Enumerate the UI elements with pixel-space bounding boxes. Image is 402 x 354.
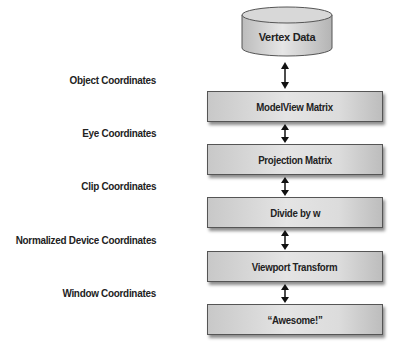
stage-viewport-transform: Viewport Transform bbox=[207, 251, 383, 282]
stage-label: ModelView Matrix bbox=[257, 101, 333, 113]
label-object-coordinates: Object Coordinates bbox=[70, 74, 156, 86]
vertex-data-label: Vertex Data bbox=[241, 22, 333, 52]
label-normalized-device-coordinates: Normalized Device Coordinates bbox=[15, 234, 156, 246]
double-arrow-icon bbox=[279, 177, 291, 196]
stage-label: Divide by w bbox=[270, 207, 320, 219]
stage-label: “Awesome!” bbox=[267, 314, 322, 326]
stage-label: Viewport Transform bbox=[252, 261, 338, 273]
stage-awesome: “Awesome!” bbox=[207, 304, 383, 335]
label-clip-coordinates: Clip Coordinates bbox=[81, 180, 156, 192]
stage-modelview-matrix: ModelView Matrix bbox=[207, 91, 383, 122]
stage-projection-matrix: Projection Matrix bbox=[207, 144, 383, 175]
double-arrow-icon bbox=[279, 284, 291, 303]
stage-label: Projection Matrix bbox=[258, 154, 332, 166]
stage-divide-by-w: Divide by w bbox=[207, 197, 383, 228]
double-arrow-icon bbox=[279, 62, 291, 89]
double-arrow-icon bbox=[279, 124, 291, 143]
label-eye-coordinates: Eye Coordinates bbox=[82, 127, 156, 139]
double-arrow-icon bbox=[279, 230, 291, 250]
label-window-coordinates: Window Coordinates bbox=[62, 287, 156, 299]
